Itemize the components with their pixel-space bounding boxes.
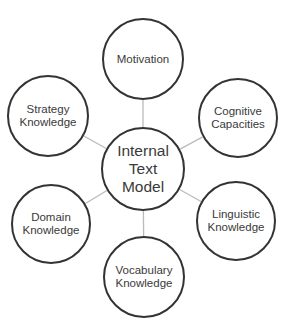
node-label: Strategy Knowledge bbox=[20, 103, 77, 129]
node-strategy-knowledge: Strategy Knowledge bbox=[7, 75, 89, 157]
node-domain-knowledge: Domain Knowledge bbox=[11, 184, 91, 264]
connector-line bbox=[85, 191, 107, 204]
connector-line bbox=[180, 189, 201, 201]
diagram-canvas: Internal Text Model Motivation Cognitive… bbox=[0, 0, 287, 332]
node-vocabulary-knowledge: Vocabulary Knowledge bbox=[103, 236, 185, 318]
node-linguistic-knowledge: Linguistic Knowledge bbox=[196, 181, 276, 261]
node-internal-text-model: Internal Text Model bbox=[101, 127, 185, 211]
node-motivation: Motivation bbox=[102, 18, 184, 100]
connector-line bbox=[84, 136, 107, 149]
node-label: Vocabulary Knowledge bbox=[116, 264, 173, 290]
node-label: Motivation bbox=[117, 53, 169, 66]
node-label: Domain Knowledge bbox=[23, 211, 80, 237]
node-cognitive-capacities: Cognitive Capacities bbox=[198, 78, 278, 158]
node-label: Linguistic Knowledge bbox=[208, 208, 265, 234]
connector-line bbox=[180, 137, 203, 149]
node-label: Internal Text Model bbox=[117, 142, 169, 196]
node-label: Cognitive Capacities bbox=[211, 105, 265, 131]
